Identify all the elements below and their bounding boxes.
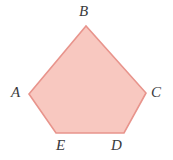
vertex-label-b: B — [79, 4, 88, 19]
pentagon-svg — [0, 0, 173, 160]
vertex-label-a: A — [11, 85, 20, 100]
vertex-label-e: E — [56, 138, 65, 153]
geometry-figure: A B C D E — [0, 0, 173, 160]
vertex-label-d: D — [111, 138, 122, 153]
vertex-label-c: C — [151, 85, 161, 100]
pentagon-shape — [29, 26, 146, 133]
